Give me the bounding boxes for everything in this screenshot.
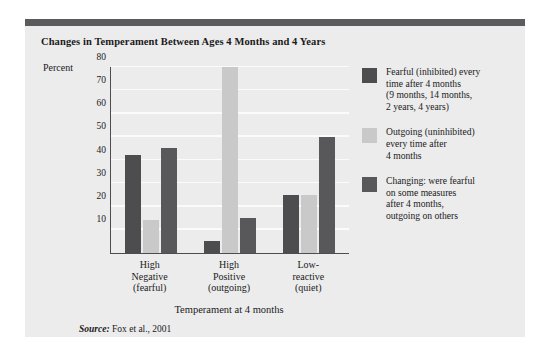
- source-note: Source: Fox et al., 2001: [79, 324, 171, 334]
- bar: [125, 155, 141, 253]
- chart-legend: Fearful (inhibited) everytime after 4 mo…: [362, 66, 522, 236]
- y-axis-title: Percent: [43, 62, 73, 73]
- legend-label-line: outgoing on others: [386, 210, 522, 222]
- y-axis-tick-label: 10: [97, 216, 107, 226]
- legend-label-line: Changing: were fearful: [386, 175, 522, 187]
- x-axis-category-label: HighNegative(fearful): [132, 259, 168, 294]
- x-axis-category-label-line: Low-: [293, 259, 325, 271]
- legend-swatch: [362, 177, 377, 192]
- source-citation: Fox et al., 2001: [110, 324, 172, 334]
- x-axis-category-label-line: (quiet): [293, 282, 325, 294]
- y-axis-tick-label: 80: [97, 53, 107, 63]
- bar: [204, 241, 220, 253]
- legend-swatch: [362, 68, 377, 83]
- x-axis-category-label-line: High: [132, 259, 168, 271]
- legend-label-line: after 4 months,: [386, 198, 522, 210]
- y-axis-tick-label: 50: [97, 123, 107, 133]
- legend-label-line: (9 months, 14 months,: [386, 89, 522, 101]
- y-axis-tick-label: 30: [97, 169, 107, 179]
- legend-label-line: on some measures: [386, 187, 522, 199]
- legend-label-line: 2 years, 4 years): [386, 101, 522, 113]
- legend-label: Changing: were fearfulon some measuresaf…: [386, 175, 522, 221]
- legend-label: Outgoing (uninhibited)every time after4 …: [386, 126, 522, 161]
- y-axis-tick-label: 70: [97, 76, 107, 86]
- x-axis-category-label: Low-reactive(quiet): [293, 259, 325, 294]
- x-axis-category-label-line: (fearful): [132, 282, 168, 294]
- figure-panel: Changes in Temperament Between Ages 4 Mo…: [25, 19, 525, 337]
- legend-label-line: Outgoing (uninhibited): [386, 126, 522, 138]
- y-axis-tick-label: 40: [97, 146, 107, 156]
- x-axis-category-label: HighPositive(outgoing): [208, 259, 250, 294]
- plot-area: 1020304050607080: [110, 67, 349, 254]
- legend-label-line: time after 4 months: [386, 78, 522, 90]
- legend-label-line: Fearful (inhibited) every: [386, 66, 522, 78]
- y-axis-tick-label: 60: [97, 99, 107, 109]
- x-axis-title: Temperament at 4 months: [174, 304, 283, 315]
- y-axis-tick-label: 20: [97, 192, 107, 202]
- x-axis-category-label-line: High: [208, 259, 250, 271]
- legend-swatch: [362, 128, 377, 143]
- bar: [240, 218, 256, 253]
- x-axis-category-label-line: reactive: [293, 271, 325, 283]
- source-label: Source:: [79, 324, 110, 334]
- legend-entry: Fearful (inhibited) everytime after 4 mo…: [362, 66, 522, 112]
- bar: [143, 220, 159, 253]
- bar: [319, 137, 335, 253]
- x-axis-category-label-line: (outgoing): [208, 282, 250, 294]
- legend-entry: Outgoing (uninhibited)every time after4 …: [362, 126, 522, 161]
- bar: [161, 148, 177, 253]
- x-axis-category-label-line: Negative: [132, 271, 168, 283]
- bar: [222, 67, 238, 253]
- legend-entry: Changing: were fearfulon some measuresaf…: [362, 175, 522, 221]
- bar: [301, 195, 317, 253]
- legend-label: Fearful (inhibited) everytime after 4 mo…: [386, 66, 522, 112]
- x-axis-category-label-line: Positive: [208, 271, 250, 283]
- legend-label-line: 4 months: [386, 150, 522, 162]
- legend-label-line: every time after: [386, 138, 522, 150]
- bar: [283, 195, 299, 253]
